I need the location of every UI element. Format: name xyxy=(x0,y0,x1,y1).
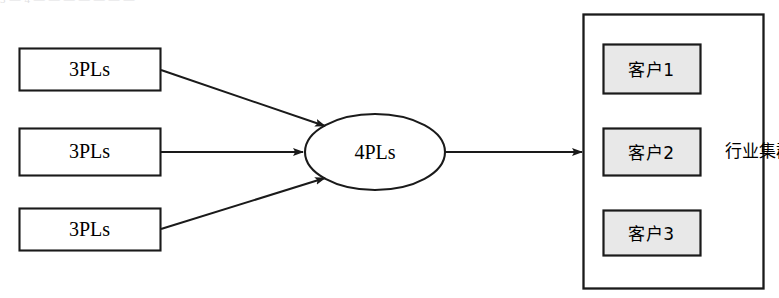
client-box-3 xyxy=(604,211,701,256)
integrator-ellipse xyxy=(305,114,445,190)
provider-box-1 xyxy=(20,49,161,91)
diagram-vector-layer xyxy=(0,0,779,298)
client-box-2 xyxy=(604,129,701,176)
connector-provider1-to-integrator xyxy=(161,70,325,126)
client-box-1 xyxy=(604,45,701,94)
diagram-canvas: 3 — 4 — — — — — — — 3PLs 3PLs 3PLs 4PLs … xyxy=(0,0,779,298)
provider-box-3 xyxy=(20,209,161,251)
connector-provider3-to-integrator xyxy=(161,178,325,229)
provider-box-2 xyxy=(20,129,161,176)
